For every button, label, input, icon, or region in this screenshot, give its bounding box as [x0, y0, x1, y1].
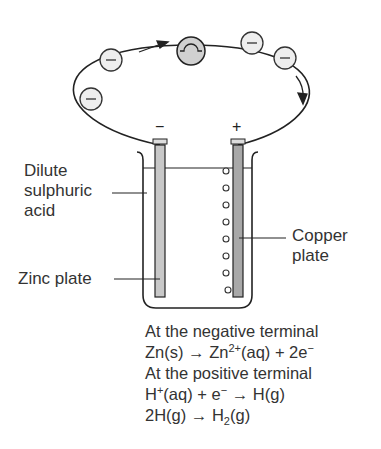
acid-label: Dilute sulphuric acid: [24, 161, 92, 221]
hydrogen-bubbles: [223, 168, 231, 293]
svg-text:+: +: [232, 118, 241, 135]
copper-label: Copper plate: [292, 226, 348, 266]
equation-line: At the positive terminal: [145, 363, 312, 384]
copper-plate: [233, 145, 243, 297]
zinc-label: Zinc plate: [18, 269, 92, 289]
equation-line: 2H(g) → H2(g): [145, 405, 250, 426]
svg-text:−: −: [155, 118, 164, 135]
bulb-icon: [177, 37, 205, 65]
zinc-plate: [155, 145, 165, 297]
equation-line: Zn(s) → Zn2+(aq) + 2e−: [145, 342, 314, 363]
equation-line: At the negative terminal: [145, 321, 318, 342]
equation-line: H+(aq) + e− → H(g): [145, 384, 285, 405]
